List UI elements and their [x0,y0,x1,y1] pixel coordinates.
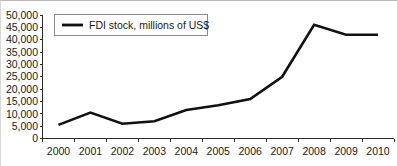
x-axis-tick-labels: 2000200120022003200420052006200720082009… [47,145,390,157]
x-axis-tick-label: 2002 [111,145,135,157]
x-axis-tick-label: 2008 [302,145,326,157]
x-axis-tick-label: 2010 [366,145,390,157]
legend-label-fdi-stock: FDI stock, millions of US$ [89,19,209,31]
series-line-fdi-stock [58,25,378,125]
fdi-stock-line-chart: 05,00010,00015,00020,00025,00030,00035,0… [0,0,397,166]
y-axis-tick-labels: 05,00010,00015,00020,00025,00030,00035,0… [6,9,38,145]
x-axis-tick-label: 2004 [175,145,199,157]
y-axis-tick-label: 35,000 [6,46,38,58]
chart-canvas: 05,00010,00015,00020,00025,00030,00035,0… [1,1,397,166]
x-axis-tick-label: 2009 [334,145,358,157]
y-axis-tick-label: 25,000 [6,70,38,82]
x-axis-tick-label: 2000 [47,145,71,157]
y-axis-tick-label: 45,000 [6,21,38,33]
y-axis-tick-label: 30,000 [6,58,38,70]
y-axis-tick-label: 20,000 [6,83,38,95]
x-axis-tick-label: 2003 [143,145,167,157]
y-axis-tick-label: 5,000 [12,120,38,132]
y-axis-tick-label: 50,000 [6,9,38,21]
x-axis-tick-marks [43,139,395,143]
y-axis-tick-label: 40,000 [6,33,38,45]
y-axis-tick-label: 10,000 [6,108,38,120]
x-axis-tick-label: 2006 [239,145,263,157]
x-axis-tick-label: 2005 [207,145,231,157]
y-axis-tick-label: 15,000 [6,95,38,107]
y-axis-tick-label: 0 [32,132,38,144]
x-axis-tick-label: 2001 [79,145,103,157]
chart-legend: FDI stock, millions of US$ [55,15,210,36]
x-axis-tick-label: 2007 [270,145,294,157]
